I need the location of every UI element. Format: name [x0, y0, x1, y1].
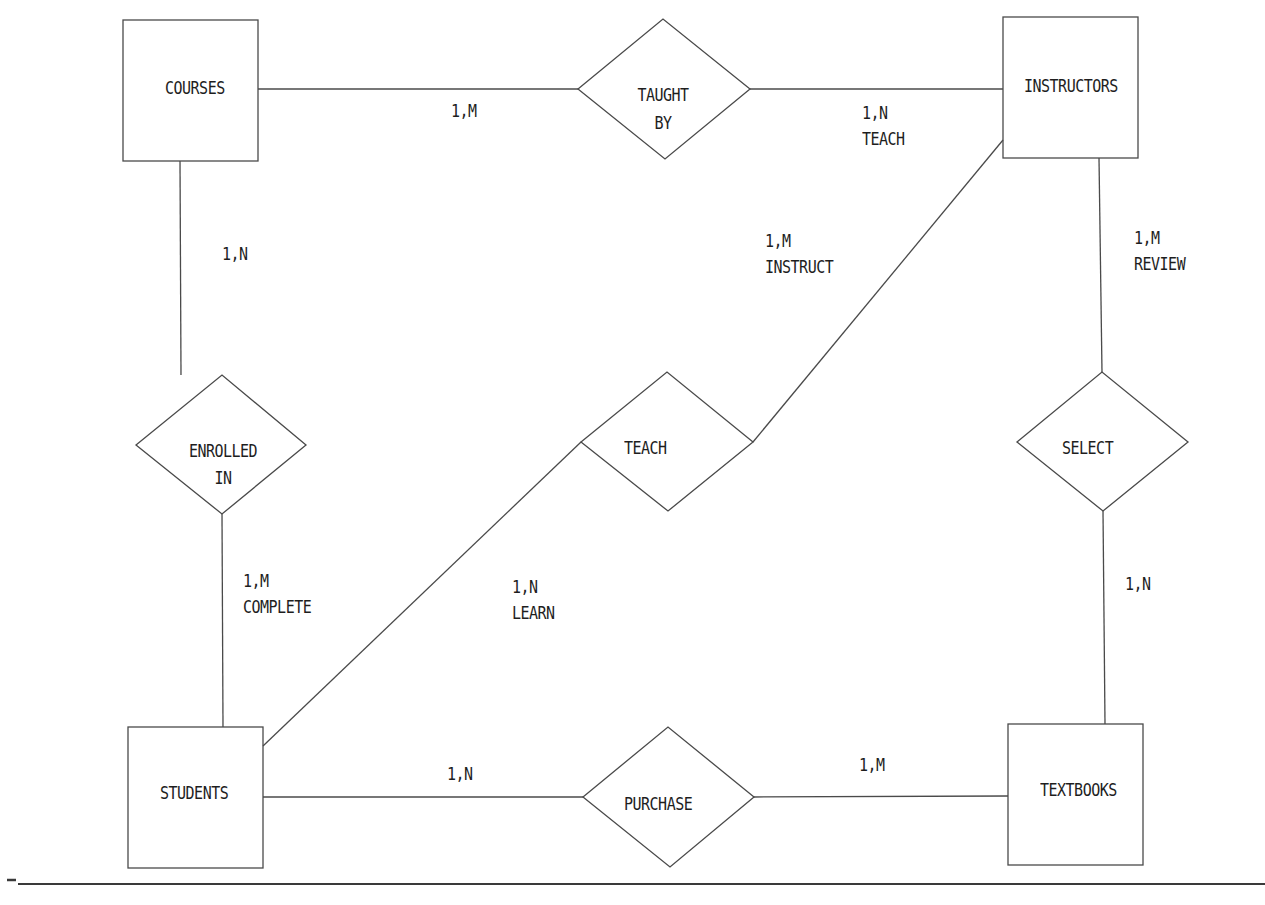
- relationship-label-select: SELECT: [1062, 433, 1113, 463]
- role-taught-by-instructors: TEACH: [862, 124, 905, 154]
- role-teach-students: LEARN: [512, 598, 555, 628]
- entity-label-textbooks: TEXTBOOKS: [1040, 775, 1117, 805]
- role-enrolled-in-students: COMPLETE: [243, 592, 311, 622]
- relationship-diamond-teach[interactable]: [581, 372, 753, 511]
- cardinality-students-purchase: 1,N: [447, 759, 473, 789]
- connector-instructors-teach-line: [753, 140, 1003, 442]
- connector-purchase-textbooks: [754, 796, 1008, 797]
- connector-enrolled-in-students: [222, 514, 223, 727]
- entity-label-courses: COURSES: [165, 73, 225, 103]
- cardinality-courses-taught-by: 1,M: [451, 96, 477, 126]
- relationship-label-purchase: PURCHASE: [624, 789, 692, 819]
- connector-courses-enrolled-in: [180, 161, 181, 375]
- role-instructors-teach: INSTRUCT: [765, 252, 833, 282]
- relationship-label-taught-by-line2: BY: [618, 108, 708, 138]
- connector-instructors-select: [1099, 158, 1102, 372]
- relationship-label-enrolled-in-line1: ENROLLED: [173, 436, 273, 466]
- role-instructors-select: REVIEW: [1134, 249, 1185, 279]
- cardinality-courses-enrolled-in: 1,N: [222, 239, 248, 269]
- entity-label-students: STUDENTS: [160, 778, 228, 808]
- cardinality-purchase-textbooks: 1,M: [859, 750, 885, 780]
- connector-select-textbooks: [1103, 511, 1105, 724]
- relationship-label-teach: TEACH: [624, 433, 667, 463]
- relationship-label-taught-by-line1: TAUGHT: [618, 80, 708, 110]
- relationship-label-enrolled-in-line2: IN: [173, 463, 273, 493]
- entity-label-instructors: INSTRUCTORS: [1024, 71, 1118, 101]
- cardinality-select-textbooks: 1,N: [1125, 569, 1151, 599]
